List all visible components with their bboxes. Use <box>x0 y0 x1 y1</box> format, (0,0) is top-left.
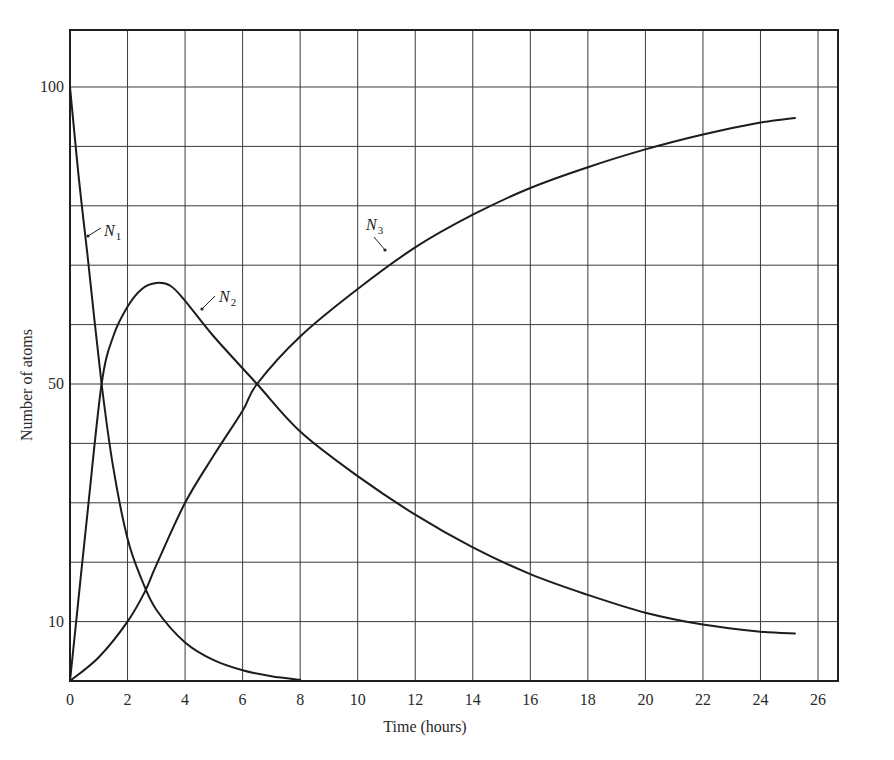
curve-label-n1: N1 <box>103 222 121 242</box>
grid-lines <box>70 30 838 681</box>
x-tick-label: 6 <box>239 691 247 708</box>
label-pointer-n1 <box>88 228 101 236</box>
y-axis-ticks: 1050100 <box>40 78 64 630</box>
x-tick-label: 20 <box>637 691 653 708</box>
y-tick-label: 100 <box>40 78 64 95</box>
curve-label-n2: N2 <box>218 288 236 308</box>
x-tick-label: 14 <box>465 691 481 708</box>
x-tick-label: 4 <box>181 691 189 708</box>
pointer-arrowhead-icon <box>86 234 89 237</box>
x-tick-label: 22 <box>695 691 711 708</box>
x-axis-ticks: 02468101214161820222426 <box>66 691 826 708</box>
x-tick-label: 0 <box>66 691 74 708</box>
x-tick-label: 26 <box>810 691 826 708</box>
x-axis-label: Time (hours) <box>383 718 466 736</box>
x-tick-label: 18 <box>580 691 596 708</box>
y-tick-label: 10 <box>48 613 64 630</box>
curve-labels: N1N2N3 <box>86 216 386 311</box>
pointer-arrowhead-icon <box>383 248 386 251</box>
x-tick-label: 10 <box>350 691 366 708</box>
chart: 02468101214161820222426 1050100 N1N2N3 T… <box>0 0 894 760</box>
x-tick-label: 12 <box>407 691 423 708</box>
y-tick-label: 50 <box>48 375 64 392</box>
curve-n3 <box>70 118 795 681</box>
x-tick-label: 2 <box>124 691 132 708</box>
x-tick-label: 24 <box>752 691 768 708</box>
label-pointer-n3 <box>374 237 385 250</box>
x-tick-label: 16 <box>522 691 538 708</box>
pointer-arrowhead-icon <box>200 307 203 310</box>
x-tick-label: 8 <box>296 691 304 708</box>
label-pointer-n2 <box>202 296 215 309</box>
curve-label-n3: N3 <box>365 216 384 236</box>
y-axis-label: Number of atoms <box>18 329 35 441</box>
